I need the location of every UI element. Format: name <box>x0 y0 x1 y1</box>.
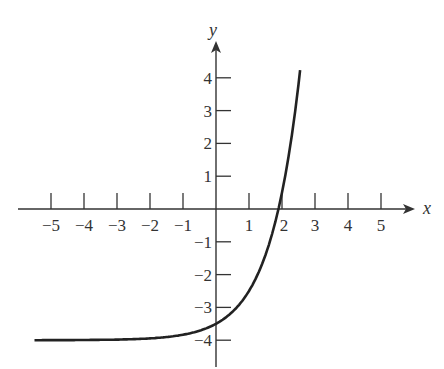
axes <box>18 41 415 367</box>
x-tick-label: −3 <box>108 216 126 235</box>
y-tick-label: −3 <box>194 298 212 317</box>
x-tick-label: 5 <box>377 216 386 235</box>
y-tick-label: 1 <box>204 167 213 186</box>
x-axis-label: x <box>422 198 431 218</box>
x-tick-label: −4 <box>75 216 94 235</box>
x-tick-label: −5 <box>42 216 60 235</box>
exponential-curve <box>35 70 301 340</box>
x-tick-label: 3 <box>311 216 320 235</box>
y-tick-label: 3 <box>204 102 213 121</box>
y-tick-label: −1 <box>194 233 212 252</box>
x-tick-label: −2 <box>141 216 159 235</box>
x-tick-label: 1 <box>245 216 254 235</box>
x-tick-label: −1 <box>174 216 192 235</box>
y-tick-label: 4 <box>204 69 213 88</box>
chart-canvas: −5−4−3−2−112345−4−3−2−11234 x y <box>0 0 444 369</box>
y-axis-label: y <box>207 20 217 40</box>
x-tick-label: 4 <box>344 216 353 235</box>
y-tick-label: −2 <box>194 266 212 285</box>
x-tick-label: 2 <box>280 216 289 235</box>
y-tick-label: −4 <box>194 331 213 350</box>
y-tick-label: 2 <box>204 134 213 153</box>
